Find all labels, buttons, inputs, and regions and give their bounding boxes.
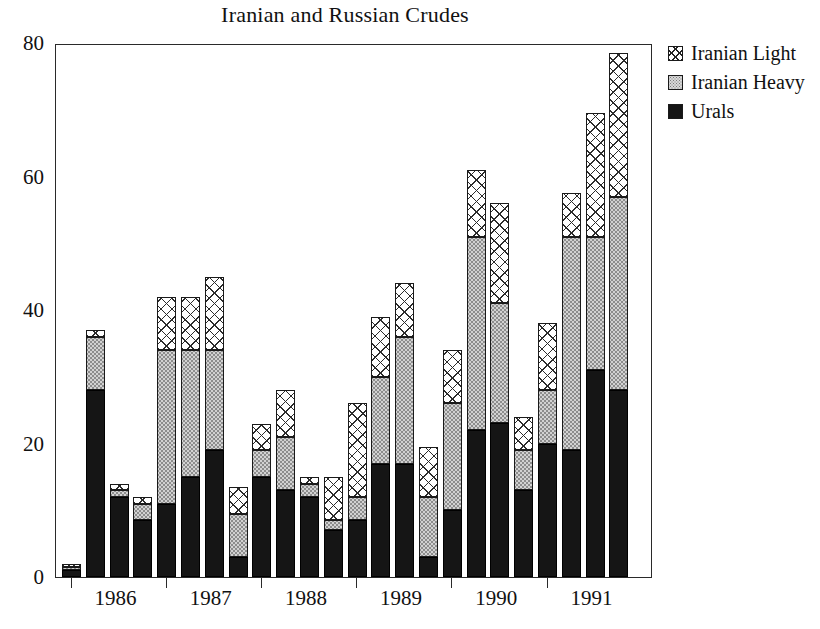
- plot-area: [55, 44, 652, 578]
- bar-segment-heavy: [395, 337, 414, 464]
- bar-segment-light: [86, 330, 105, 337]
- x-tick-mark: [356, 578, 357, 588]
- bar-segment-heavy: [205, 350, 224, 450]
- x-tick-label-1989: 1989: [366, 588, 436, 609]
- legend-label: Iranian Light: [691, 43, 796, 63]
- bar-segment-urals: [609, 390, 628, 577]
- bar-1988-q3: [300, 43, 319, 577]
- bar-segment-light: [562, 193, 581, 236]
- bar-segment-heavy: [538, 390, 557, 443]
- bar-1988-q4: [324, 43, 343, 577]
- legend-item-iranian-light[interactable]: Iranian Light: [668, 40, 820, 66]
- bar-segment-heavy: [371, 377, 390, 464]
- crosshatch-swatch-icon: [668, 46, 683, 61]
- bar-1986-q4: [133, 43, 152, 577]
- legend-item-urals[interactable]: Urals: [668, 98, 820, 124]
- bar-1990-q4: [514, 43, 533, 577]
- bar-segment-light: [276, 390, 295, 437]
- bar-segment-heavy: [586, 237, 605, 371]
- bar-segment-heavy: [86, 337, 105, 390]
- bar-1987-q3: [205, 43, 224, 577]
- y-axis: 020406080: [0, 0, 55, 629]
- bar-segment-light: [467, 170, 486, 237]
- bar-segment-heavy: [157, 350, 176, 504]
- stipple-swatch-icon: [668, 75, 683, 90]
- bar-segment-light: [514, 417, 533, 450]
- y-tick-label: 20: [0, 434, 44, 455]
- bar-segment-urals: [110, 497, 129, 577]
- bar-segment-heavy: [324, 520, 343, 530]
- bar-segment-heavy: [110, 490, 129, 497]
- bar-segment-heavy: [562, 237, 581, 451]
- bar-1986-q1: [62, 43, 81, 577]
- bar-segment-heavy: [252, 450, 271, 477]
- bar-segment-light: [181, 297, 200, 350]
- bar-segment-light: [300, 477, 319, 484]
- bar-segment-heavy: [276, 437, 295, 490]
- x-tick-mark: [261, 578, 262, 588]
- x-tick-label-1987: 1987: [176, 588, 246, 609]
- bar-segment-urals: [229, 557, 248, 577]
- bar-segment-urals: [467, 430, 486, 577]
- bar-1991-q3: [586, 43, 605, 577]
- bar-segment-light: [538, 323, 557, 390]
- bar-segment-light: [62, 564, 81, 567]
- bar-1988-q1: [252, 43, 271, 577]
- bar-segment-light: [395, 283, 414, 336]
- bar-segment-heavy: [467, 237, 486, 431]
- bar-segment-heavy: [348, 497, 367, 520]
- x-tick-label-1990: 1990: [461, 588, 531, 609]
- bar-1989-q3: [395, 43, 414, 577]
- bar-segment-heavy: [62, 567, 81, 570]
- bar-1989-q2: [371, 43, 390, 577]
- x-tick-mark: [547, 578, 548, 588]
- bar-segment-urals: [348, 520, 367, 577]
- bar-segment-urals: [490, 423, 509, 577]
- bar-segment-light: [348, 403, 367, 496]
- bar-segment-light: [586, 113, 605, 236]
- bar-1987-q4: [229, 43, 248, 577]
- bar-segment-urals: [181, 477, 200, 577]
- bar-segment-heavy: [490, 303, 509, 423]
- bar-segment-heavy: [300, 484, 319, 497]
- bars-container: [56, 45, 651, 577]
- bar-1991-q2: [562, 43, 581, 577]
- bar-segment-urals: [443, 510, 462, 577]
- y-tick-label: 80: [0, 33, 44, 54]
- bar-segment-urals: [133, 520, 152, 577]
- x-tick-mark: [71, 578, 72, 588]
- bar-segment-urals: [586, 370, 605, 577]
- bar-segment-heavy: [609, 197, 628, 391]
- bar-segment-light: [419, 447, 438, 497]
- x-tick-label-1988: 1988: [271, 588, 341, 609]
- bar-segment-urals: [276, 490, 295, 577]
- bar-segment-urals: [86, 390, 105, 577]
- legend-label: Iranian Heavy: [691, 72, 805, 92]
- bar-segment-light: [443, 350, 462, 403]
- x-tick-mark: [166, 578, 167, 588]
- bar-segment-light: [324, 477, 343, 520]
- bar-1990-q1: [443, 43, 462, 577]
- bar-1990-q2: [467, 43, 486, 577]
- bar-segment-urals: [562, 450, 581, 577]
- bar-segment-urals: [419, 557, 438, 577]
- bar-segment-heavy: [181, 350, 200, 477]
- bar-1991-q4: [609, 43, 628, 577]
- bar-segment-light: [205, 277, 224, 350]
- chart-legend: Iranian Light Iranian Heavy Urals: [668, 40, 820, 127]
- bar-segment-light: [252, 424, 271, 451]
- bar-segment-urals: [324, 530, 343, 577]
- bar-segment-heavy: [419, 497, 438, 557]
- legend-item-iranian-heavy[interactable]: Iranian Heavy: [668, 69, 820, 95]
- y-tick-label: 40: [0, 300, 44, 321]
- bar-segment-urals: [62, 570, 81, 577]
- bar-segment-urals: [395, 464, 414, 577]
- page-title: Iranian and Russian Crudes: [0, 2, 690, 28]
- bar-1991-q1: [538, 43, 557, 577]
- legend-label: Urals: [691, 101, 734, 121]
- bar-segment-urals: [157, 504, 176, 577]
- bar-segment-urals: [252, 477, 271, 577]
- bar-segment-urals: [514, 490, 533, 577]
- bar-segment-light: [609, 53, 628, 197]
- bar-1989-q1: [348, 43, 367, 577]
